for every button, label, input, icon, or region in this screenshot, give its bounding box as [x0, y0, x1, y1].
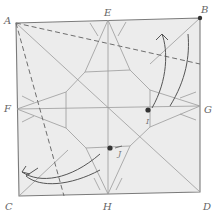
label-E: E: [103, 7, 112, 18]
point-J-marker: [107, 145, 112, 150]
point-I-marker: [145, 107, 150, 112]
label-A: A: [3, 15, 11, 26]
label-F: F: [3, 103, 12, 114]
label-C: C: [5, 201, 13, 210]
label-D: D: [202, 201, 211, 210]
origami-diagram: A B C D E F G H I J: [0, 0, 214, 210]
label-H: H: [102, 201, 112, 210]
label-G: G: [204, 104, 212, 115]
point-B-marker: [198, 16, 202, 20]
label-B: B: [200, 4, 208, 15]
